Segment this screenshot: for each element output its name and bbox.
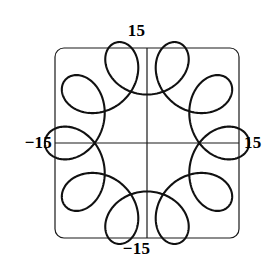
- axis-label-bottom: −15: [0, 240, 273, 257]
- axis-label-top: 15: [0, 22, 273, 39]
- axis-label-left: −15: [4, 134, 52, 151]
- figure-root: 15 −15 −15 15: [0, 0, 273, 272]
- axis-label-right: 15: [244, 134, 272, 151]
